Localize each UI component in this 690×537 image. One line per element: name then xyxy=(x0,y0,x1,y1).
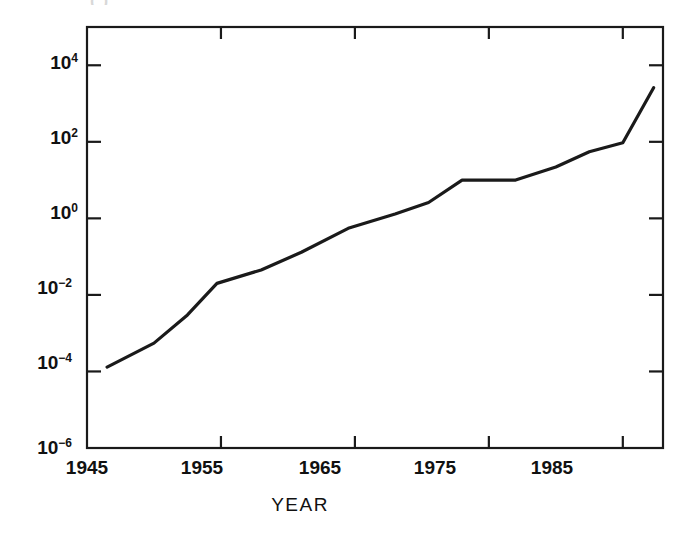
y-tick-label-10e-2: 10−2 xyxy=(2,278,72,297)
y-tick-label-10e4: 104 xyxy=(8,53,78,72)
figure-canvas: ( ) 104 102 100 10−2 10−4 10−6 1945 1955… xyxy=(0,0,690,537)
y-tick-label-10e2: 102 xyxy=(8,128,78,147)
tick-marks xyxy=(87,27,663,448)
x-tick-label-1945: 1945 xyxy=(42,458,132,477)
plot-frame xyxy=(87,27,663,448)
cropped-title-fragment: ( ) xyxy=(90,0,510,5)
x-tick-label-1965: 1965 xyxy=(275,458,365,477)
y-tick-label-10e-6: 10−6 xyxy=(2,438,72,457)
x-tick-label-1955: 1955 xyxy=(157,458,247,477)
x-tick-label-1975: 1975 xyxy=(390,458,480,477)
y-tick-label-10e0: 100 xyxy=(8,203,78,222)
data-line-series-1 xyxy=(107,88,654,367)
y-tick-label-10e-4: 10−4 xyxy=(2,353,72,372)
x-tick-label-1985: 1985 xyxy=(507,458,597,477)
x-axis-title: YEAR xyxy=(0,494,645,516)
